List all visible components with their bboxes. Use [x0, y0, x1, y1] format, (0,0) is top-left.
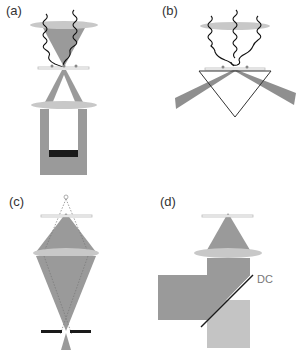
sample-slide — [205, 68, 265, 70]
particle-icon — [222, 66, 225, 69]
microscopy-diagram: (a) (b) — [0, 0, 303, 351]
sample-slide — [41, 215, 92, 217]
panel-d: (d) DC — [158, 194, 273, 348]
wave-icon — [233, 10, 237, 58]
prism — [199, 71, 271, 117]
cone-after-pinhole — [61, 333, 71, 350]
cone — [207, 213, 250, 250]
panel-b-label: (b) — [162, 3, 178, 18]
panel-c-label: (c) — [9, 194, 24, 209]
objective-lens — [194, 248, 262, 258]
cone-lower — [36, 256, 96, 331]
panel-c: (c) — [9, 194, 99, 350]
pinhole-left — [41, 330, 62, 333]
panel-a: (a) — [6, 3, 98, 175]
scattered-beam-right — [62, 70, 84, 104]
panel-b: (b) — [162, 3, 296, 117]
detector — [49, 150, 78, 157]
dichroic-label: DC — [257, 273, 273, 285]
sample-slide — [202, 215, 253, 217]
detection-path-hollow — [49, 109, 78, 157]
panel-a-label: (a) — [6, 3, 22, 18]
panel-d-label: (d) — [160, 194, 176, 209]
out-of-focus-point — [64, 195, 68, 199]
beam-right — [233, 70, 296, 105]
cone-upper — [36, 213, 96, 252]
particle-icon — [51, 65, 54, 68]
pinhole-right — [70, 330, 91, 333]
particle-icon — [246, 66, 249, 69]
objective-lens-top — [30, 21, 98, 29]
particle-icon — [63, 65, 66, 68]
particle-icon — [75, 65, 78, 68]
scattered-beam-left — [44, 70, 66, 104]
beam-left — [175, 70, 237, 109]
collection-lens — [31, 101, 97, 109]
